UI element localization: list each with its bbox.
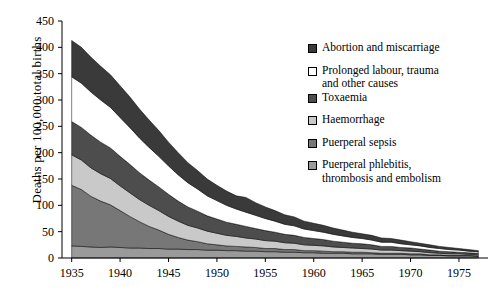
y-tick-label: 250: [20, 121, 54, 131]
legend-label: Toxaemia: [322, 91, 367, 105]
legend-label-line2: and other causes: [322, 77, 439, 91]
x-tick-label: 1940: [100, 267, 140, 279]
x-tick-label: 1960: [294, 267, 334, 279]
legend-item[interactable]: Abortion and miscarriage: [308, 41, 493, 55]
y-tick-label: 400: [20, 42, 54, 52]
y-tick-label: 450: [20, 16, 54, 26]
x-tick-label: 1945: [149, 267, 189, 279]
legend-label: Puerperal phlebitis,thrombosis and embol…: [322, 158, 441, 185]
chart-root: Deaths per 100,000 total births 05010015…: [0, 0, 495, 291]
legend-label: Abortion and miscarriage: [322, 41, 440, 55]
y-tick-label: 150: [20, 174, 54, 184]
legend-swatch-icon: [308, 139, 317, 148]
x-tick-label: 1970: [391, 267, 431, 279]
legend-label: Prolonged labour, traumaand other causes: [322, 64, 439, 91]
x-tick-label: 1975: [439, 267, 479, 279]
legend-swatch-icon: [308, 67, 317, 76]
x-tick-label: 1935: [52, 267, 92, 279]
legend-label: Puerperal sepsis: [322, 136, 396, 150]
legend-item[interactable]: Prolonged labour, traumaand other causes: [308, 64, 493, 91]
x-tick-label: 1965: [342, 267, 382, 279]
y-tick-label: 50: [20, 227, 54, 237]
legend-item[interactable]: Toxaemia: [308, 91, 493, 105]
x-tick-label: 1950: [197, 267, 237, 279]
legend-item[interactable]: Puerperal phlebitis,thrombosis and embol…: [308, 158, 493, 185]
legend-swatch-icon: [308, 44, 317, 53]
y-tick-label: 0: [20, 253, 54, 263]
legend-label: Haemorrhage: [322, 113, 385, 127]
y-tick-label: 200: [20, 148, 54, 158]
y-tick-label: 350: [20, 69, 54, 79]
legend-swatch-icon: [308, 94, 317, 103]
x-tick-label: 1955: [245, 267, 285, 279]
legend-swatch-icon: [308, 116, 317, 125]
chart-legend: Abortion and miscarriageProlonged labour…: [308, 41, 493, 185]
y-tick-label: 100: [20, 200, 54, 210]
legend-swatch-icon: [308, 161, 317, 170]
legend-label-line2: thrombosis and embolism: [322, 172, 441, 186]
y-tick-label: 300: [20, 95, 54, 105]
legend-item[interactable]: Puerperal sepsis: [308, 136, 493, 150]
legend-item[interactable]: Haemorrhage: [308, 113, 493, 127]
